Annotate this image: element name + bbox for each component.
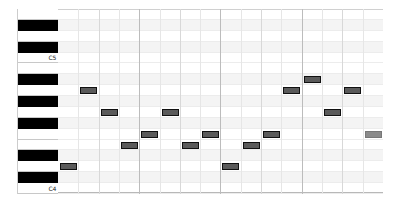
piano-key-gsharp4[interactable] <box>18 96 58 107</box>
grid-line <box>342 9 343 194</box>
note-asharp4[interactable] <box>304 76 321 83</box>
key-label: C4 <box>49 186 56 192</box>
note-g4[interactable] <box>324 109 341 116</box>
piano-key-fsharp4[interactable] <box>18 118 58 129</box>
note-a4[interactable] <box>80 87 97 94</box>
note-g4[interactable] <box>162 109 179 116</box>
piano-key-d4[interactable] <box>18 161 58 172</box>
piano-key-e4[interactable] <box>18 140 58 151</box>
bar-line <box>302 9 303 194</box>
grid-line <box>119 9 120 194</box>
bar-line <box>220 9 221 194</box>
piano-key-a4[interactable] <box>18 85 58 96</box>
note-e4[interactable] <box>182 142 199 149</box>
piano-key-b4[interactable] <box>18 63 58 74</box>
note-g4[interactable] <box>101 109 118 116</box>
piano-key-dsharp4[interactable] <box>18 150 58 161</box>
grid-line <box>180 9 181 194</box>
note-e4[interactable] <box>243 142 260 149</box>
note-d4[interactable] <box>60 163 77 170</box>
note-f4[interactable] <box>365 131 382 138</box>
grid-line <box>261 9 262 194</box>
grid-line <box>78 9 79 194</box>
key-label: C5 <box>49 55 56 61</box>
grid-line <box>200 9 201 194</box>
piano-key-c5[interactable]: C5 <box>18 53 58 64</box>
piano-key-csharp5[interactable] <box>18 42 58 53</box>
note-d4[interactable] <box>222 163 239 170</box>
grid-line <box>281 9 282 194</box>
note-a4[interactable] <box>344 87 361 94</box>
piano-key-g4[interactable] <box>18 107 58 118</box>
piano-key-dsharp5[interactable] <box>18 20 58 31</box>
grid-line <box>363 9 364 194</box>
piano-key-asharp4[interactable] <box>18 74 58 85</box>
note-f4[interactable] <box>263 131 280 138</box>
piano-key-f4[interactable] <box>18 129 58 140</box>
grid-line <box>241 9 242 194</box>
note-grid[interactable] <box>58 9 383 194</box>
piano-key-d5[interactable] <box>18 31 58 42</box>
piano-keyboard: C5C4 <box>17 9 58 194</box>
note-a4[interactable] <box>283 87 300 94</box>
grid-line <box>160 9 161 194</box>
grid-line <box>99 9 100 194</box>
piano-key-e5[interactable] <box>18 9 58 20</box>
bar-line <box>139 9 140 194</box>
note-f4[interactable] <box>202 131 219 138</box>
piano-key-c4[interactable]: C4 <box>18 183 58 194</box>
piano-key-csharp4[interactable] <box>18 172 58 183</box>
grid-line <box>322 9 323 194</box>
note-e4[interactable] <box>121 142 138 149</box>
note-f4[interactable] <box>141 131 158 138</box>
